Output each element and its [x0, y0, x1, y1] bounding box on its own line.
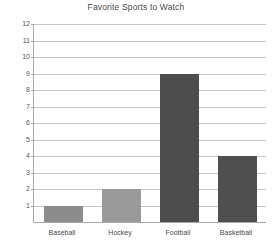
y-axis-tick-mark [31, 156, 34, 157]
y-axis-tick-mark [31, 90, 34, 91]
chart-title: Favorite Sports to Watch [0, 2, 272, 13]
y-axis-tick-label: 8 [26, 86, 30, 94]
y-axis-tick-label: 2 [26, 185, 30, 193]
y-axis-tick-mark [31, 189, 34, 190]
gridline [34, 74, 266, 75]
bar-chart: Favorite Sports to Watch 123456789101112… [0, 0, 272, 248]
y-axis-tick-mark [31, 57, 34, 58]
gridline [34, 24, 266, 25]
y-axis-tick-label: 3 [26, 169, 30, 177]
y-axis-tick-mark [31, 140, 34, 141]
bar [218, 156, 257, 222]
y-axis-tick-label: 6 [26, 119, 30, 127]
bar [44, 206, 83, 223]
plot-area: 123456789101112 [33, 24, 266, 223]
y-axis-tick-mark [31, 41, 34, 42]
gridline [34, 41, 266, 42]
y-axis-tick-label: 9 [26, 70, 30, 78]
x-axis-tick-label: Hockey [108, 228, 131, 237]
y-axis-tick-label: 7 [26, 103, 30, 111]
y-axis-tick-label: 10 [22, 53, 30, 61]
y-axis-tick-mark [31, 123, 34, 124]
x-axis-tick-label: Football [166, 228, 191, 237]
y-axis-tick-mark [31, 74, 34, 75]
gridline [34, 90, 266, 91]
y-axis-tick-label: 1 [26, 202, 30, 210]
x-axis-tick-label: Baseball [49, 228, 76, 237]
gridline [34, 123, 266, 124]
y-axis-tick-mark [31, 173, 34, 174]
y-axis-tick-mark [31, 107, 34, 108]
y-axis-tick-label: 5 [26, 136, 30, 144]
gridline [34, 57, 266, 58]
bar [160, 74, 199, 223]
bar [102, 189, 141, 222]
gridline [34, 107, 266, 108]
x-axis-tick-label: Basketball [220, 228, 252, 237]
y-axis-tick-label: 4 [26, 152, 30, 160]
y-axis-tick-mark [31, 24, 34, 25]
y-axis-tick-label: 12 [22, 20, 30, 28]
y-axis-tick-label: 11 [23, 37, 30, 45]
gridline [34, 140, 266, 141]
y-axis-tick-mark [31, 206, 34, 207]
